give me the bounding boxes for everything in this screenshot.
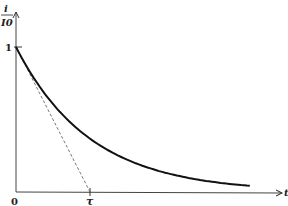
x-axis-label: t	[284, 187, 288, 198]
y-label-numerator: i	[4, 3, 8, 14]
y-label-denominator: I0	[0, 17, 13, 28]
y-tick-label-1: 1	[5, 42, 12, 53]
x-tick-label-0: 0	[11, 196, 18, 206]
x-tick-label-tau: τ	[86, 195, 94, 206]
x-axis	[16, 192, 282, 193]
decay-diagram: i I0 1 0 τ t	[0, 0, 288, 206]
